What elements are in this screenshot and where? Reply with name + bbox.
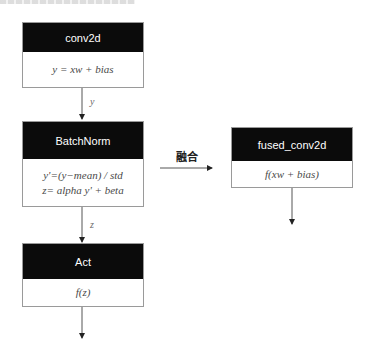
node-fused-conv2d-body: f(xw + bias) bbox=[232, 161, 352, 187]
node-conv2d-body: y = xw + bias bbox=[23, 52, 143, 87]
node-fused-conv2d: fused_conv2d f(xw + bias) bbox=[231, 127, 353, 188]
node-act: Act f(z) bbox=[22, 243, 144, 307]
node-fused-conv2d-title: fused_conv2d bbox=[232, 128, 352, 161]
node-batchnorm-formula-2: z= alpha y' + beta bbox=[42, 183, 123, 198]
node-batchnorm-title: BatchNorm bbox=[23, 122, 143, 159]
node-fused-conv2d-formula: f(xw + bias) bbox=[265, 167, 319, 182]
node-act-body: f(z) bbox=[23, 279, 143, 306]
node-conv2d-title: conv2d bbox=[23, 23, 143, 52]
node-conv2d-formula: y = xw + bias bbox=[52, 62, 113, 77]
cropped-caption-fragment bbox=[0, 0, 135, 4]
node-act-title: Act bbox=[23, 244, 143, 279]
node-batchnorm-body: y'=(y−mean) / std z= alpha y' + beta bbox=[23, 159, 143, 206]
node-conv2d: conv2d y = xw + bias bbox=[22, 22, 144, 88]
node-batchnorm: BatchNorm y'=(y−mean) / std z= alpha y' … bbox=[22, 121, 144, 207]
edge-label-y: y bbox=[90, 96, 94, 107]
fuse-label: 融合 bbox=[176, 148, 198, 164]
node-act-formula: f(z) bbox=[76, 285, 91, 300]
node-batchnorm-formula-1: y'=(y−mean) / std bbox=[43, 168, 123, 183]
edge-label-z: z bbox=[90, 219, 94, 230]
